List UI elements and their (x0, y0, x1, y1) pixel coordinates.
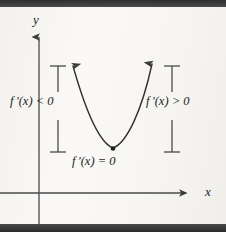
left-interval-bracket (50, 66, 66, 152)
left-interval-label: f ′(x) < 0 (10, 95, 54, 108)
vertex-point-marker (111, 146, 116, 151)
parabola-curve (73, 66, 113, 148)
x-axis-label: x (205, 185, 211, 198)
derivative-sign-figure: f ′(x) < 0 f ′(x) > 0 f ′(x) = 0 y x (0, 0, 226, 232)
y-axis-label: y (33, 13, 39, 26)
right-interval-label: f ′(x) > 0 (146, 95, 190, 108)
vertex-label: f ′(x) = 0 (72, 155, 116, 168)
plot-canvas (0, 0, 226, 232)
right-interval-bracket (164, 66, 180, 152)
